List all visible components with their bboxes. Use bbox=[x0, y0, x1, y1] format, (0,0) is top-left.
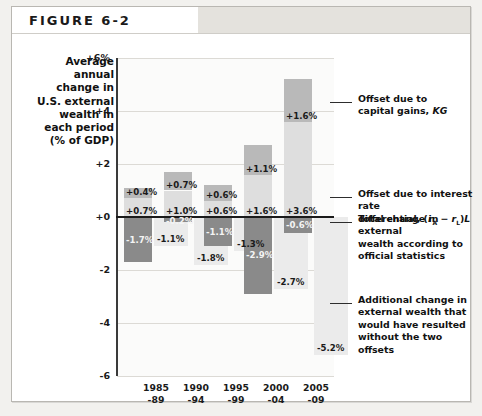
bar-label-interest-differential: +0.7% bbox=[126, 206, 157, 216]
x-axis-tick-line: 1990 bbox=[174, 382, 218, 394]
gridline bbox=[117, 58, 334, 59]
callout-text: Additional change inexternal wealth that… bbox=[358, 294, 478, 356]
callout-text-line: Additional change in bbox=[358, 294, 478, 306]
callout-text-line: without the two offsets bbox=[358, 331, 478, 356]
zero-line bbox=[116, 216, 334, 218]
x-axis-tick-line: -09 bbox=[294, 394, 338, 406]
bar-label-capital-gains: +0.6% bbox=[206, 190, 237, 200]
x-axis-tick-line: -94 bbox=[174, 394, 218, 406]
callout-text-line: official statistics bbox=[358, 250, 478, 262]
x-axis-tick: 2000-04 bbox=[254, 382, 298, 406]
y-axis-tick: +4 bbox=[76, 105, 110, 116]
x-axis-tick: 1995-99 bbox=[214, 382, 258, 406]
bar-label-total-change: -2.9% bbox=[246, 250, 273, 260]
bar-label-total-change: -1.7% bbox=[126, 235, 153, 245]
callout-leader-line bbox=[330, 303, 352, 304]
callout-leader-line bbox=[330, 222, 352, 223]
callout-text-line: wealth according to bbox=[358, 238, 478, 250]
bar-label-additional-change: -1.3% bbox=[237, 239, 264, 249]
callout-text-line: Offset due to interest rate bbox=[358, 188, 478, 213]
bar-label-additional-change: -5.2% bbox=[317, 343, 344, 353]
bar-label-capital-gains: +1.6% bbox=[286, 111, 317, 121]
x-axis-tick: 1990-94 bbox=[174, 382, 218, 406]
bar-label-capital-gains: +0.4% bbox=[126, 187, 157, 197]
callout-leader-line bbox=[330, 197, 352, 198]
bar-label-additional-change: -2.7% bbox=[277, 277, 304, 287]
callout-text-line: would have resulted bbox=[358, 319, 478, 331]
y-axis-tick: -2 bbox=[76, 264, 110, 275]
x-axis-tick-line: 2005 bbox=[294, 382, 338, 394]
y-axis-tick: -4 bbox=[76, 317, 110, 328]
callout-text-line: capital gains, KG bbox=[358, 105, 478, 117]
callout-text-line: Total change in external bbox=[358, 213, 478, 238]
figure-card: FIGURE 6-2 Averageannualchange inU.S. ex… bbox=[11, 6, 471, 402]
gridline bbox=[117, 323, 334, 324]
bar-label-total-change: -0.2% bbox=[166, 216, 193, 226]
callout-text-line: external wealth that bbox=[358, 306, 478, 318]
x-axis-tick-line: -99 bbox=[214, 394, 258, 406]
y-axis-tick: +6% bbox=[76, 52, 110, 63]
bar-label-additional-change: -1.1% bbox=[157, 234, 184, 244]
bar-label-interest-differential: +0.6% bbox=[206, 206, 237, 216]
chart-plot-area: +6%+4+2+0-2-4-6-1.1%+0.7%+0.4%-1.7%-1.8%… bbox=[12, 7, 472, 403]
x-axis-tick-line: -04 bbox=[254, 394, 298, 406]
gridline bbox=[117, 376, 334, 377]
bar-interest-differential bbox=[284, 122, 312, 217]
bar-label-interest-differential: +1.0% bbox=[166, 206, 197, 216]
y-axis-tick: -6 bbox=[76, 370, 110, 381]
screenshot-root: FIGURE 6-2 Averageannualchange inU.S. ex… bbox=[0, 0, 482, 416]
callout-text: Offset due tocapital gains, KG bbox=[358, 93, 478, 118]
bar-label-capital-gains: +1.1% bbox=[246, 164, 277, 174]
bar-additional-change bbox=[314, 217, 348, 355]
y-axis-tick: +2 bbox=[76, 158, 110, 169]
callout-text-line: Offset due to bbox=[358, 93, 478, 105]
bar-label-interest-differential: +3.6% bbox=[286, 206, 317, 216]
x-axis-tick-line: 2000 bbox=[254, 382, 298, 394]
bar-label-capital-gains: +0.7% bbox=[166, 180, 197, 190]
bar-label-additional-change: -1.8% bbox=[197, 253, 224, 263]
x-axis-tick: 1985-89 bbox=[134, 382, 178, 406]
y-axis-tick: +0 bbox=[76, 211, 110, 222]
bar-label-total-change: -0.6% bbox=[286, 220, 313, 230]
x-axis-tick-line: 1985 bbox=[134, 382, 178, 394]
callout-leader-line bbox=[330, 102, 352, 103]
x-axis-tick-line: 1995 bbox=[214, 382, 258, 394]
callout-text: Total change in externalwealth according… bbox=[358, 213, 478, 263]
x-axis-tick-line: -89 bbox=[134, 394, 178, 406]
bar-label-interest-differential: +1.6% bbox=[246, 206, 277, 216]
x-axis-tick: 2005-09 bbox=[294, 382, 338, 406]
bar-label-total-change: -1.1% bbox=[206, 227, 233, 237]
